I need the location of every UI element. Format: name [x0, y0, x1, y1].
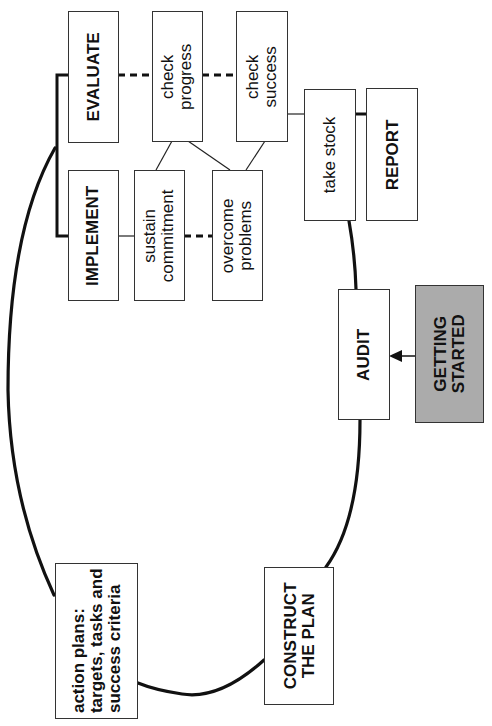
line-check-success-to-overcome — [246, 141, 265, 170]
node-evaluate: EVALUATE — [68, 11, 119, 143]
arrowhead-icon — [389, 350, 402, 362]
node-label: CONSTRUCT THE PLAN — [281, 583, 317, 690]
node-label: sustain commitment — [142, 189, 178, 282]
node-label: EVALUATE — [85, 32, 103, 121]
node-overcome-problems: overcome problems — [212, 170, 263, 301]
node-label: action plans: targets, tasks and success… — [70, 569, 124, 714]
node-label: take stock — [321, 117, 339, 194]
line-check-progress-to-sustain — [156, 141, 172, 170]
node-sustain-commitment: sustain commitment — [134, 170, 185, 301]
node-check-success: check success — [236, 11, 288, 142]
node-construct-plan: CONSTRUCT THE PLAN — [264, 567, 334, 705]
arrow-getting-started-to-audit — [389, 350, 415, 362]
node-label: check success — [244, 46, 280, 107]
node-label: AUDIT — [355, 329, 373, 381]
node-implement: IMPLEMENT — [68, 170, 119, 301]
node-label: GETTING STARTED — [432, 314, 468, 393]
node-report: REPORT — [366, 88, 418, 221]
node-action-plans: action plans: targets, tasks and success… — [55, 563, 138, 719]
node-getting-started: GETTING STARTED — [415, 285, 484, 423]
node-label: check progress — [160, 43, 196, 109]
node-label: IMPLEMENT — [85, 185, 103, 285]
cycle-segment-audit-to-construct — [326, 420, 360, 567]
line-check-progress-to-overcome — [188, 141, 230, 170]
node-label: REPORT — [383, 119, 401, 190]
node-audit: AUDIT — [338, 289, 390, 420]
node-take-stock: take stock — [304, 89, 356, 221]
node-check-progress: check progress — [152, 11, 203, 142]
cycle-segment-take-stock-to-audit — [349, 221, 356, 289]
cycle-segment-construct-to-action — [138, 660, 264, 695]
implement-evaluate-bracket — [57, 75, 68, 236]
cycle-segment-action-to-implement — [8, 148, 55, 595]
node-label: overcome problems — [220, 198, 256, 273]
